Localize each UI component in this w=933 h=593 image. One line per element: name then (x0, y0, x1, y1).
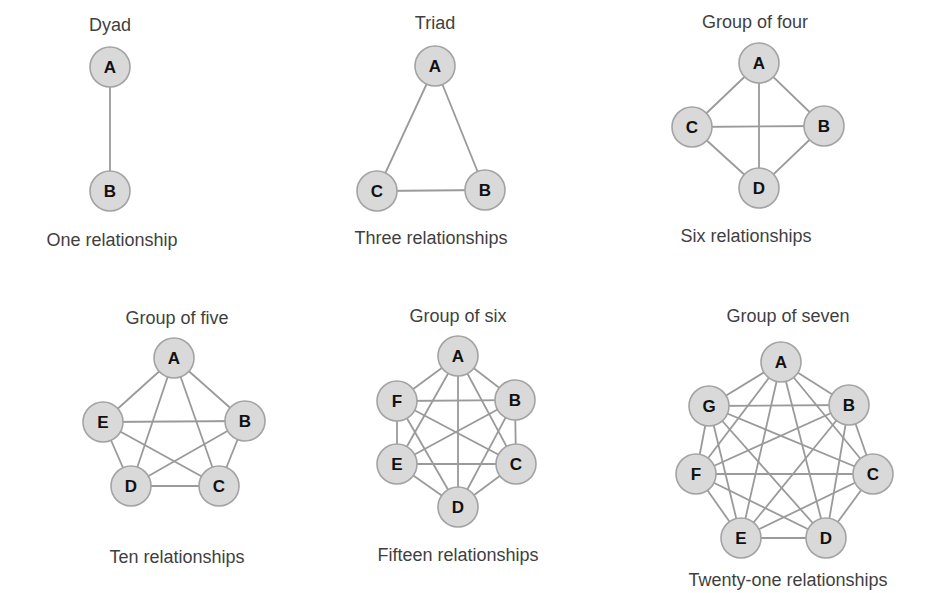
node-label: B (818, 117, 830, 136)
node-C: C (853, 454, 893, 494)
group-title: Group of four (702, 12, 808, 32)
group-title: Group of seven (726, 306, 849, 326)
node-E: E (377, 444, 417, 484)
edges (397, 356, 516, 507)
node-C: C (496, 444, 536, 484)
node-label: A (168, 349, 180, 368)
group-caption: Fifteen relationships (377, 545, 538, 565)
node-F: F (676, 454, 716, 494)
node-label: B (843, 396, 855, 415)
node-F: F (377, 381, 417, 421)
group-caption: Three relationships (354, 228, 507, 248)
node-A: A (438, 336, 478, 376)
node-B: B (829, 385, 869, 425)
node-label: D (452, 498, 464, 517)
node-E: E (721, 518, 761, 558)
node-label: A (104, 58, 116, 77)
edge-B-G (709, 405, 849, 406)
node-label: C (213, 477, 225, 496)
node-A: A (739, 43, 779, 83)
group-title: Group of six (409, 306, 506, 326)
node-label: A (452, 347, 464, 366)
group-caption: Ten relationships (109, 547, 244, 567)
node-label: B (239, 412, 251, 431)
node-label: D (125, 477, 137, 496)
node-B: B (465, 170, 505, 210)
group-group-of-four: Group of fourABCDSix relationships (672, 12, 844, 246)
group-triad: TriadABCThree relationships (354, 13, 507, 248)
node-label: C (686, 118, 698, 137)
node-label: E (391, 455, 402, 474)
group-group-of-five: Group of fiveABCDETen relationships (83, 308, 265, 567)
edge-B-E (741, 405, 849, 538)
node-C: C (357, 171, 397, 211)
node-label: C (867, 465, 879, 484)
node-C: C (672, 107, 712, 147)
node-label: E (97, 413, 108, 432)
node-label: D (820, 529, 832, 548)
group-caption: Twenty-one relationships (688, 570, 887, 590)
node-G: G (689, 386, 729, 426)
node-label: A (753, 54, 765, 73)
node-label: C (510, 455, 522, 474)
node-B: B (495, 380, 535, 420)
node-label: A (775, 353, 787, 372)
node-A: A (761, 342, 801, 382)
node-C: C (199, 466, 239, 506)
group-dyad: DyadABOne relationship (46, 15, 177, 250)
node-label: C (371, 182, 383, 201)
group-title: Group of five (125, 308, 228, 328)
node-D: D (739, 168, 779, 208)
edge-B-E (103, 421, 245, 422)
node-D: D (806, 518, 846, 558)
node-label: E (735, 529, 746, 548)
node-D: D (438, 487, 478, 527)
node-label: B (104, 182, 116, 201)
group-relationships-diagram: DyadABOne relationshipTriadABCThree rela… (0, 0, 933, 593)
group-caption: Six relationships (680, 226, 811, 246)
node-label: F (691, 465, 701, 484)
node-B: B (225, 401, 265, 441)
group-group-of-seven: Group of sevenABCDEFGTwenty-one relation… (676, 306, 893, 590)
node-E: E (83, 402, 123, 442)
node-A: A (154, 338, 194, 378)
node-A: A (415, 46, 455, 86)
node-label: D (753, 179, 765, 198)
group-group-of-six: Group of sixABCDEFFifteen relationships (377, 306, 539, 565)
node-label: B (479, 181, 491, 200)
node-label: A (429, 57, 441, 76)
node-label: F (392, 392, 402, 411)
node-B: B (804, 106, 844, 146)
group-title: Triad (415, 13, 455, 33)
node-B: B (90, 171, 130, 211)
group-title: Dyad (89, 15, 131, 35)
group-caption: One relationship (46, 230, 177, 250)
node-D: D (111, 466, 151, 506)
node-label: G (702, 397, 715, 416)
node-A: A (90, 47, 130, 87)
node-label: B (509, 391, 521, 410)
